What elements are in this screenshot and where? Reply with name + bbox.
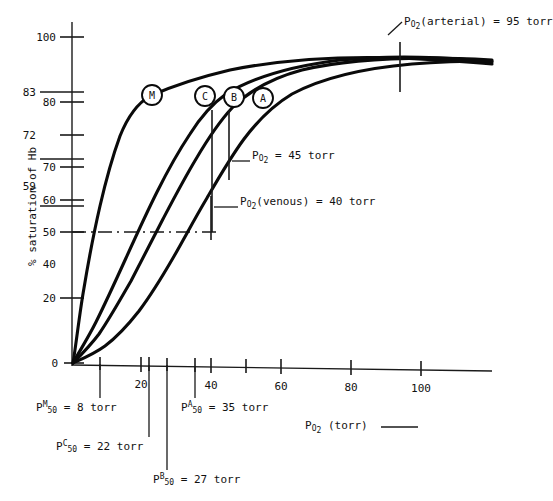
p50-label-b-rest: = 27 torr — [174, 473, 240, 486]
y-tick-40: 40 — [43, 258, 56, 271]
x-axis-line — [72, 365, 492, 371]
curve-badge-b-label: B — [231, 92, 237, 103]
p50-label-m-sub: 50 — [47, 406, 57, 415]
x-axis-title: PO2 (torr) — [305, 420, 368, 436]
curve-badge-a-label: A — [260, 93, 266, 104]
p50-label-m-rest: = 8 torr — [57, 401, 117, 414]
curve-badge-m-label: M — [149, 90, 155, 101]
y-tick-20: 20 — [43, 292, 56, 305]
annotation-po2-45-rest: = 45 torr — [268, 149, 334, 162]
x-axis-title-rest: (torr) — [321, 419, 367, 432]
x-tick-60: 60 — [274, 380, 287, 393]
annotation-po2-venous-rest: (venous) = 40 torr — [256, 195, 375, 208]
curve-badge-c: C — [195, 86, 215, 106]
y-axis-title: % saturation of Hb — [26, 137, 39, 277]
x-tick-40: 40 — [204, 379, 217, 392]
p50-label-b-base: P — [153, 473, 160, 486]
x-tick-20: 20 — [134, 378, 147, 391]
y-tick-70: 70 — [43, 161, 56, 174]
y-axis-special-leaders — [40, 92, 84, 206]
y-tick-83: 83 — [23, 86, 36, 99]
p50-label-m: PM50 = 8 torr — [36, 400, 117, 415]
p50-label-a-sub: 50 — [192, 406, 202, 415]
p50-label-a-rest: = 35 torr — [202, 401, 268, 414]
p50-label-a: PA50 = 35 torr — [181, 400, 268, 415]
y-tick-0: 0 — [51, 357, 58, 370]
y-tick-80: 80 — [43, 96, 56, 109]
p50-label-a-base: P — [181, 401, 188, 414]
p50-label-c-base: P — [56, 440, 63, 453]
annotation-po2-venous: PO2(venous) = 40 torr — [240, 196, 376, 212]
curve-badge-b: B — [224, 87, 244, 107]
arterial-leader-line — [388, 22, 402, 35]
p50-label-m-base: P — [36, 401, 43, 414]
p50-label-c-sub: 50 — [67, 445, 77, 454]
annotation-po2-arterial: PO2(arterial) = 95 torr — [404, 16, 553, 32]
p50-label-c: PC50 = 22 torr — [56, 439, 143, 454]
curve-badge-c-label: C — [202, 91, 208, 102]
curve-badge-a: A — [253, 88, 273, 108]
p50-label-c-rest: = 22 torr — [77, 440, 143, 453]
annotation-po2-45: PO2 = 45 torr — [252, 150, 335, 166]
p50-label-b: PB50 = 27 torr — [153, 472, 240, 487]
y-tick-50: 50 — [43, 226, 56, 239]
x-axis-title-p: P — [305, 419, 312, 432]
x-tick-80: 80 — [344, 381, 357, 394]
annotation-po2-venous-p: P — [240, 195, 247, 208]
annotation-po2-arterial-p: P — [404, 15, 411, 28]
y-tick-60: 60 — [43, 194, 56, 207]
p50-label-b-sub: 50 — [164, 478, 174, 487]
annotation-po2-45-p: P — [252, 149, 259, 162]
y-tick-100: 100 — [36, 31, 56, 44]
x-axis-tick-labels: 20 40 60 80 100 — [134, 378, 431, 395]
curve-badge-m: M — [142, 85, 162, 105]
x-tick-100: 100 — [411, 382, 431, 395]
annotation-po2-arterial-rest: (arterial) = 95 torr — [420, 15, 552, 28]
